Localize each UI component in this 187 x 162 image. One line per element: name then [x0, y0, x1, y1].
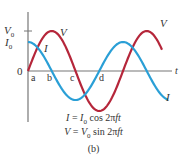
t-axis-label: t [175, 65, 178, 76]
v-curve-label-right: V [160, 17, 168, 29]
point-a: a [31, 72, 36, 83]
figure-caption: (b) [0, 143, 187, 154]
origin-label: 0 [17, 65, 23, 77]
i-curve-label: I [43, 42, 49, 54]
point-d: d [99, 72, 104, 83]
equation-voltage: V = V0 sin 2πft [0, 126, 187, 140]
point-b: b [47, 72, 52, 83]
i-curve-label-right: I [165, 91, 171, 103]
v-curve-label: V [60, 26, 68, 38]
point-c: c [70, 72, 75, 83]
equation-current: I = I0 cos 2πft [0, 112, 187, 126]
